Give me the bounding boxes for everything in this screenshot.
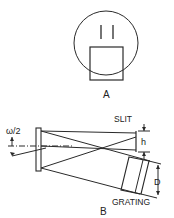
slit-height-label: h	[141, 137, 146, 147]
grating-label: GRATING	[112, 197, 150, 207]
grating-width-label: D	[154, 177, 161, 187]
optical-diagram: A ω/2 SLIT	[0, 0, 174, 218]
slit-label: SLIT	[114, 114, 132, 124]
panel-b	[8, 124, 161, 198]
panel-b-label: B	[100, 206, 107, 217]
angle-label: ω/2	[6, 126, 21, 136]
aperture-circle	[74, 11, 138, 75]
grating	[121, 157, 149, 194]
panel-a	[74, 11, 138, 80]
panel-a-label: A	[103, 89, 110, 100]
